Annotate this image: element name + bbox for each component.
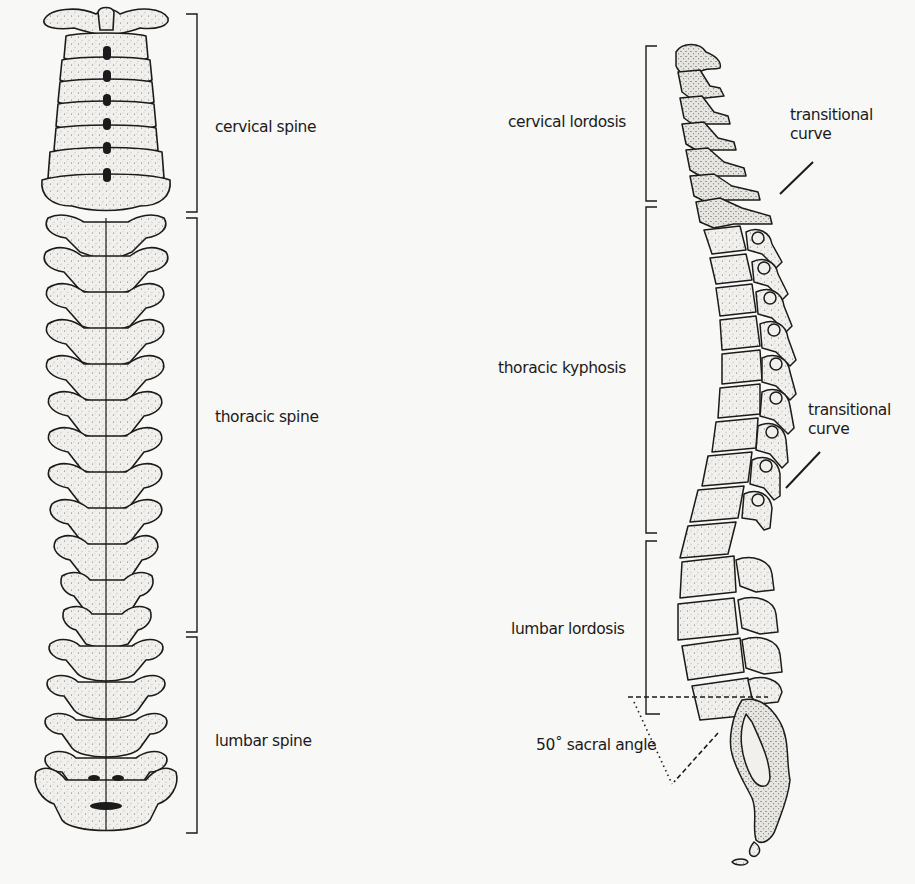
- bracket-lumbar-spine: [186, 637, 197, 833]
- lateral-spine-view: [676, 45, 796, 866]
- label-cervical-spine: cervical spine: [215, 118, 316, 137]
- label-sacral-angle: 50˚ sacral angle: [536, 736, 656, 755]
- lateral-brackets: [646, 46, 660, 714]
- leader-transitional-curve-lower: [786, 452, 820, 488]
- bracket-cervical-spine: [186, 14, 197, 212]
- bracket-lumbar-lordosis: [646, 541, 660, 714]
- label-thoracic-kyphosis: thoracic kyphosis: [498, 359, 626, 378]
- label-lumbar-lordosis: lumbar lordosis: [511, 620, 625, 639]
- sacral-slope-dashed: [674, 733, 718, 782]
- spine-illustration: [0, 0, 915, 884]
- bracket-thoracic-kyphosis: [646, 207, 657, 533]
- label-cervical-lordosis: cervical lordosis: [508, 113, 626, 132]
- label-transitional-curve-upper: transitional curve: [790, 106, 873, 144]
- bracket-thoracic-spine: [186, 218, 197, 632]
- label-transitional-curve-lower: transitional curve: [808, 401, 891, 439]
- label-thoracic-spine: thoracic spine: [215, 408, 319, 427]
- spine-diagram: cervical spine thoracic spine lumbar spi…: [0, 0, 915, 884]
- bracket-cervical-lordosis: [646, 46, 657, 201]
- label-lumbar-spine: lumbar spine: [215, 732, 312, 751]
- posterior-spine-view: [35, 8, 177, 831]
- leader-transitional-curve-upper: [780, 162, 813, 194]
- posterior-brackets: [186, 14, 197, 833]
